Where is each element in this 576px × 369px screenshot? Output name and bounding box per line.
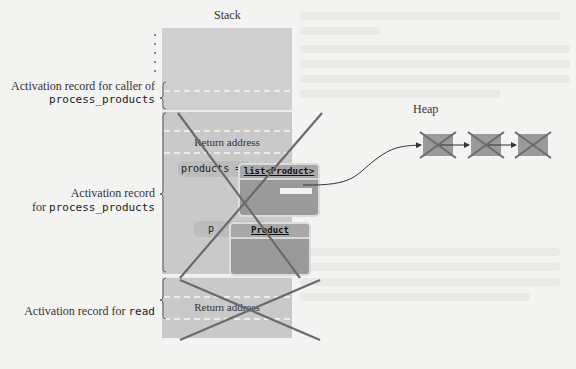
cross-icon xyxy=(180,280,320,340)
cross-icon xyxy=(420,132,551,158)
diagram-overlay xyxy=(0,0,576,369)
brace-icon xyxy=(160,82,166,319)
cross-icon xyxy=(178,113,322,278)
reference-arrow xyxy=(303,145,421,185)
ellipsis-dots xyxy=(154,34,156,72)
